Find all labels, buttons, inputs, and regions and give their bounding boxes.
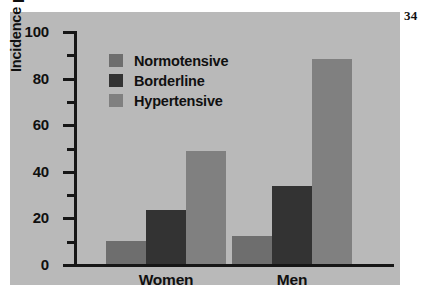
y-tick-label: 60: [33, 116, 49, 133]
bar: [186, 151, 226, 264]
legend-swatch-icon: [109, 94, 123, 107]
legend: NormotensiveBorderlineHypertensive: [109, 51, 228, 111]
y-tick-major: 20: [63, 217, 74, 220]
bar: [312, 59, 352, 264]
legend-item: Borderline: [109, 71, 228, 90]
y-tick-label: 0: [41, 256, 49, 273]
y-axis-title: Incidence per 10,000: [8, 0, 24, 72]
y-tick-minor: [67, 241, 74, 244]
y-tick-major: 40: [63, 171, 74, 174]
legend-label: Normotensive: [134, 53, 228, 69]
y-axis-line: [74, 31, 77, 264]
y-tick-minor: [67, 148, 74, 151]
legend-swatch-icon: [109, 74, 123, 87]
x-axis-line: [64, 264, 394, 267]
page-number: 34: [404, 8, 418, 24]
y-tick-label: 100: [25, 23, 49, 40]
legend-label: Borderline: [134, 73, 205, 89]
y-tick-label: 80: [33, 69, 49, 86]
category-label: Women: [139, 271, 194, 289]
figure-panel: Incidence per 10,000 020406080100 WomenM…: [10, 12, 400, 285]
y-tick-major: 60: [63, 124, 74, 127]
category-label: Men: [277, 271, 307, 289]
y-tick-major: 100: [63, 31, 74, 34]
legend-item: Hypertensive: [109, 91, 228, 110]
y-tick-minor: [67, 194, 74, 197]
y-tick-minor: [67, 101, 74, 104]
legend-item: Normotensive: [109, 51, 228, 70]
y-tick-label: 20: [33, 209, 49, 226]
legend-swatch-icon: [109, 54, 123, 67]
y-tick-major: 0: [63, 264, 74, 267]
bar: [146, 210, 186, 264]
bar: [106, 241, 146, 264]
y-tick-major: 80: [63, 78, 74, 81]
bar: [232, 236, 272, 264]
bar: [272, 186, 312, 264]
y-tick-minor: [67, 54, 74, 57]
y-tick-label: 40: [33, 162, 49, 179]
legend-label: Hypertensive: [134, 93, 223, 109]
